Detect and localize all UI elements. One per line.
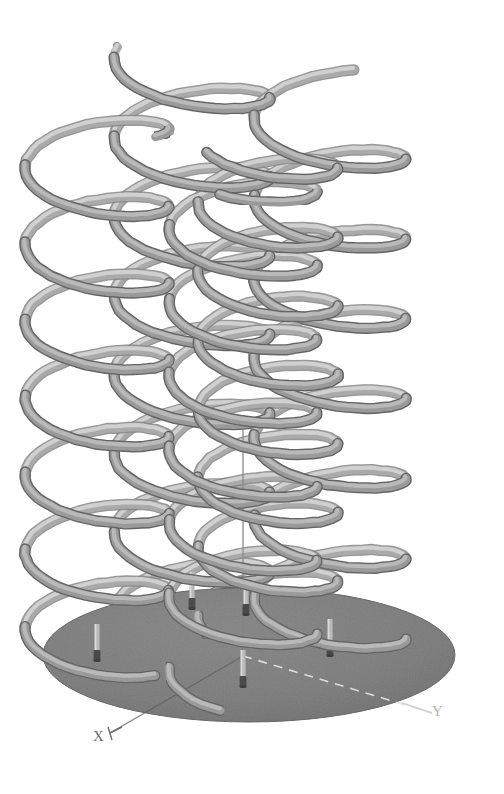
x-axis-tick [108, 727, 112, 740]
x-axis-tip [110, 727, 122, 733]
y-axis-label: Y [432, 703, 443, 720]
pin-foot-shadow [188, 607, 195, 610]
figure-canvas: X Y [0, 0, 504, 794]
helix-anchor-pin [239, 650, 246, 688]
tube-shadow [114, 57, 270, 109]
tube-shadow [25, 504, 170, 555]
pin-foot-shadow [239, 685, 246, 688]
y-axis-tip [402, 703, 432, 713]
helix-tube-front [24, 127, 169, 678]
pin-foot-shadow [93, 659, 100, 662]
helix-3d-scene [0, 0, 504, 794]
x-axis-label: X [93, 728, 104, 745]
pin-foot-shadow [326, 654, 333, 657]
tube-shadow [114, 88, 270, 141]
helix-anchor-pin [93, 624, 100, 662]
pin-foot-shadow [242, 613, 249, 616]
helix-anchor-pin [326, 619, 333, 657]
tube-shadow [25, 120, 169, 170]
tube-highlight [114, 134, 270, 186]
